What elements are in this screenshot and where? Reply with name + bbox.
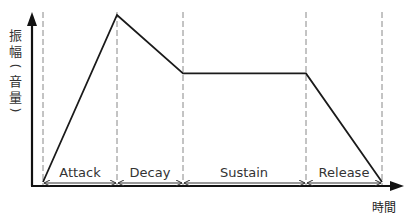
phase-guides: [43, 12, 382, 186]
y-label-char: 量: [9, 90, 22, 105]
phase-label-decay: Decay: [130, 165, 171, 180]
y-axis-label: 振 幅 ( 音 量 ): [8, 28, 23, 113]
y-label-char: ): [8, 107, 23, 112]
adsr-diagram: Attack Decay Sustain Release 振 幅 ( 音 量 )…: [0, 0, 413, 223]
y-axis-arrow-icon: [27, 12, 37, 26]
y-label-char: 振: [9, 28, 22, 43]
phase-label-attack: Attack: [59, 165, 101, 180]
y-label-char: 幅: [9, 44, 22, 59]
phase-label-sustain: Sustain: [220, 165, 268, 180]
y-label-char: 音: [9, 74, 22, 89]
x-axis-arrow-icon: [390, 181, 404, 191]
y-label-char: (: [8, 63, 23, 68]
x-axis-label: 時間: [372, 201, 396, 215]
envelope-curve: [43, 15, 382, 182]
phase-label-release: Release: [319, 165, 370, 180]
